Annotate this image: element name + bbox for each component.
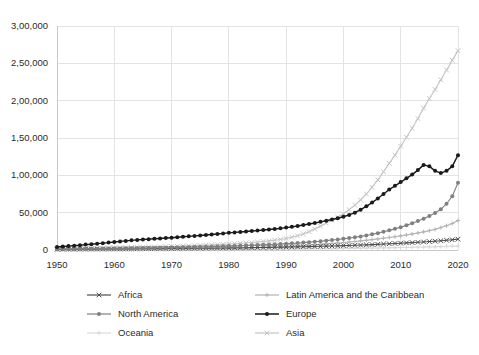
x-axis-tick-label: 1990 [276,259,297,270]
legend-item-label: Europe [286,308,317,320]
legend-item[interactable]: Latin America and the Caribbean [254,288,424,302]
legend-item-label: North America [118,308,178,320]
legend-item[interactable]: North America [86,307,178,321]
legend-marker-icon [254,327,280,339]
legend-item[interactable]: Asia [254,326,304,340]
x-axis-tick-label: 2020 [447,259,468,270]
legend-item[interactable]: Oceania [86,326,153,340]
legend-marker-icon [86,308,112,320]
legend-item[interactable]: Africa [86,288,142,302]
x-axis-tick-label: 1960 [104,259,125,270]
legend-item-label: Latin America and the Caribbean [286,289,424,301]
x-axis-tick-label: 2010 [390,259,411,270]
plot-canvas [0,0,479,282]
x-axis-tick-label: 2000 [333,259,354,270]
x-axis-tick-label: 1980 [218,259,239,270]
legend-item-label: Asia [286,327,304,339]
legend-item-label: Oceania [118,327,153,339]
legend-item-label: Africa [118,289,142,301]
chart-legend: AfricaLatin America and the CaribbeanNor… [0,283,479,355]
legend-marker-icon [86,289,112,301]
legend-item[interactable]: Europe [254,307,317,321]
line-chart: 050,0001,00,0001,50,0002,00,0002,50,0003… [0,0,479,355]
x-axis: 19501960197019801990200020102020 [0,253,479,275]
legend-marker-icon [254,289,280,301]
legend-marker-icon [254,308,280,320]
plot-area: 050,0001,00,0001,50,0002,00,0002,50,0003… [0,0,479,282]
x-axis-tick-label: 1950 [46,259,67,270]
legend-marker-icon [86,327,112,339]
x-axis-tick-label: 1970 [161,259,182,270]
